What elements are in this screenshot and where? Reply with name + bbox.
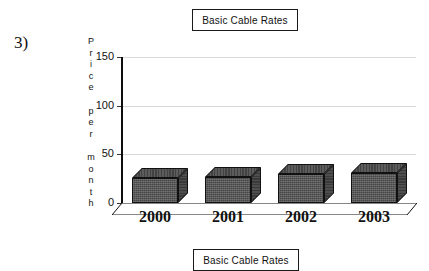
y-axis-title-letter: e (84, 82, 98, 94)
y-tick-label: 50 (80, 147, 114, 159)
y-axis-title: Price per month (84, 36, 98, 210)
y-axis-title-letter: o (84, 164, 98, 176)
y-axis-title-letter: P (84, 36, 98, 48)
y-tick-label: 0 (80, 196, 114, 208)
y-axis-title-letter: e (84, 117, 98, 129)
x-tick-label: 2000 (125, 208, 185, 226)
y-axis-title-letter: n (84, 175, 98, 187)
bar-chart: Price per month 050100150 20002001200220… (0, 0, 429, 248)
y-axis-title-letter: r (84, 129, 98, 141)
y-tick-label: 100 (80, 99, 114, 111)
x-tick-label: 2003 (344, 208, 404, 226)
gridline (123, 57, 416, 58)
gridline (123, 154, 416, 155)
bar (205, 167, 251, 203)
y-tick-label: 150 (80, 50, 114, 62)
gridline (123, 106, 416, 107)
chart-caption-box: Basic Cable Rates (193, 249, 299, 271)
bar (278, 164, 324, 203)
bar-front-face (278, 174, 324, 203)
bar (132, 168, 178, 203)
x-tick-label: 2002 (271, 208, 331, 226)
y-axis-title-letter: c (84, 71, 98, 83)
y-axis-line (121, 57, 123, 204)
x-tick-label: 2001 (198, 208, 258, 226)
bar (351, 163, 397, 203)
bar-front-face (351, 173, 397, 203)
bar-front-face (205, 177, 251, 203)
bar-front-face (132, 178, 178, 203)
